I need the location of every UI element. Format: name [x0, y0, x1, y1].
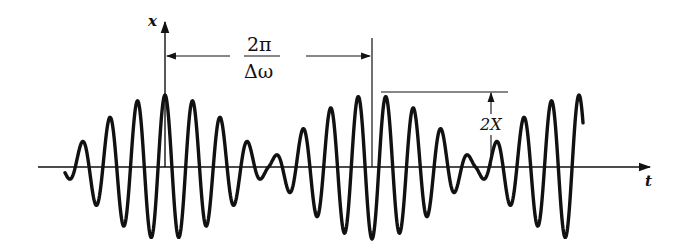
x-axis-label: x — [148, 14, 157, 29]
t-axis-label: t — [645, 174, 652, 189]
period-denominator: Δω — [244, 62, 273, 81]
period-numerator: 2π — [247, 35, 272, 54]
beat-diagram: x t 2π Δω 2X — [0, 0, 682, 246]
amplitude-label: 2X — [480, 117, 502, 133]
diagram-canvas — [0, 0, 682, 246]
